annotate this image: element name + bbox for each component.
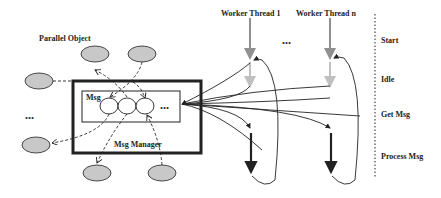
parallel-object-title: Parallel Object — [39, 34, 91, 43]
queue-ellipsis: ... — [160, 98, 169, 113]
phase-start: Start — [381, 36, 398, 45]
loop-back-curves — [252, 57, 358, 184]
worker-thread-n-label: Worker Thread n — [296, 9, 356, 18]
msg-manager-label: Msg Manager — [114, 140, 162, 149]
threads-ellipsis: ... — [282, 33, 291, 48]
get-msg-curves — [182, 63, 360, 150]
parallel-objects — [22, 46, 176, 181]
diagram-canvas — [0, 0, 441, 198]
worker-thread-n-lines — [330, 18, 331, 172]
phase-get-msg: Get Msg — [381, 110, 410, 119]
worker-thread-1-lines — [250, 18, 251, 172]
msg-queue-label: Msg — [86, 93, 101, 102]
phase-idle: Idle — [381, 75, 394, 84]
phase-process-msg: Process Msg — [381, 152, 423, 161]
objects-ellipsis: ... — [25, 108, 34, 123]
worker-thread-1-label: Worker Thread 1 — [221, 9, 281, 18]
queue-messages — [100, 98, 154, 114]
